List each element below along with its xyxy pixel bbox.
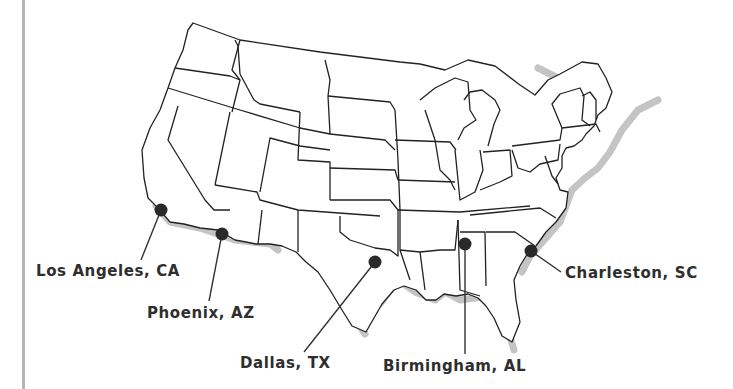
city-label-charleston: Charleston, SC xyxy=(565,264,698,282)
city-label-los-angeles: Los Angeles, CA xyxy=(36,262,180,280)
us-map xyxy=(0,0,733,389)
leader-line-los-angeles xyxy=(141,210,161,260)
city-label-phoenix: Phoenix, AZ xyxy=(147,304,255,322)
city-dot-dallas[interactable] xyxy=(369,256,382,269)
city-dot-charleston[interactable] xyxy=(525,245,538,258)
city-dot-phoenix[interactable] xyxy=(216,228,229,241)
city-label-dallas: Dallas, TX xyxy=(240,354,331,372)
city-dot-los-angeles[interactable] xyxy=(155,204,168,217)
city-label-birmingham: Birmingham, AL xyxy=(383,357,526,375)
leader-line-phoenix xyxy=(209,234,222,301)
city-dot-birmingham[interactable] xyxy=(459,238,472,251)
